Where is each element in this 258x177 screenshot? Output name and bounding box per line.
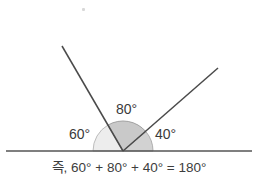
angle-label-80: 80° xyxy=(116,101,137,117)
angle-diagram-figure: 80° 60° 40° 즉, 60° + 80° + 40° = 180° xyxy=(0,0,258,177)
figure-caption-equation: 즉, 60° + 80° + 40° = 180° xyxy=(0,156,258,176)
angle-label-40: 40° xyxy=(155,126,176,142)
angle-label-60: 60° xyxy=(69,126,90,142)
diagram-canvas xyxy=(0,0,258,177)
